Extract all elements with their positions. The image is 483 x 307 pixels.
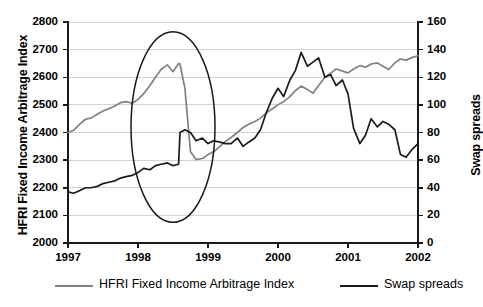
legend-line-swatch — [340, 285, 378, 287]
ltcm-crisis-highlight — [131, 32, 215, 223]
series-line-hfri-index — [68, 56, 418, 160]
legend-label: Swap spreads — [384, 277, 463, 291]
chart-legend: HFRI Fixed Income Arbitrage IndexSwap sp… — [0, 276, 477, 300]
series-line-swap-spreads — [68, 52, 418, 193]
legend-line-swatch — [55, 285, 93, 287]
legend-label: HFRI Fixed Income Arbitrage Index — [99, 277, 294, 291]
